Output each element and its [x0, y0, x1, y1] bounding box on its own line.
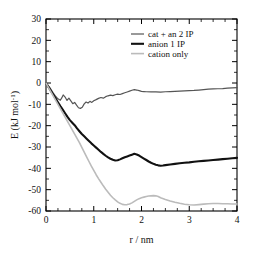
y-tick-label: -40 — [28, 164, 41, 174]
y-axis-tick-labels: 3020100-10-20-30-40-50-60 — [28, 14, 41, 216]
y-tick-label: 30 — [32, 14, 42, 24]
series-line-1 — [46, 83, 237, 166]
x-tick-label: 2 — [139, 215, 144, 225]
x-tick-label: 3 — [187, 215, 192, 225]
y-tick-label: 0 — [36, 78, 41, 88]
y-axis-title-group: E (kJ mol-1) — [9, 91, 21, 139]
y-tick-label: 10 — [32, 57, 42, 67]
series-line-2 — [46, 83, 237, 205]
x-axis-tick-labels: 01234 — [44, 215, 240, 225]
y-tick-label: -10 — [28, 100, 41, 110]
chart-figure: 3020100-10-20-30-40-50-60 01234 r / nm E… — [0, 0, 255, 253]
y-tick-label: -20 — [28, 121, 41, 131]
y-tick-label: 20 — [32, 36, 42, 46]
legend-label-1: anion 1 IP — [148, 39, 185, 49]
plot-frame — [46, 19, 237, 211]
y-axis-minor-ticks — [46, 30, 237, 201]
x-axis-minor-ticks — [58, 19, 225, 211]
y-tick-label: -30 — [28, 142, 41, 152]
x-axis-title: r / nm — [130, 234, 154, 245]
x-tick-label: 4 — [235, 215, 240, 225]
energy-vs-distance-line-chart: 3020100-10-20-30-40-50-60 01234 r / nm E… — [0, 0, 255, 253]
x-axis-major-ticks — [46, 19, 237, 211]
data-series-group — [46, 83, 237, 205]
y-tick-label: -50 — [28, 185, 41, 195]
y-axis-title: E (kJ mol-1) — [9, 91, 21, 139]
x-tick-label: 1 — [91, 215, 96, 225]
legend-label-2: cation only — [148, 49, 189, 59]
legend-label-0: cat + an 2 IP — [148, 29, 194, 39]
y-axis-major-ticks — [46, 19, 237, 211]
x-tick-label: 0 — [44, 215, 49, 225]
y-tick-label: -60 — [28, 206, 41, 216]
series-line-0 — [46, 83, 237, 108]
chart-legend: cat + an 2 IPanion 1 IPcation only — [131, 29, 194, 59]
